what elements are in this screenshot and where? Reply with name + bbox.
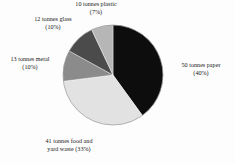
- chart-area: 10 tonnes plastic (7%) 12 tonnes glass (…: [0, 0, 235, 164]
- pie-label-plastic: 10 tonnes plastic (7%): [60, 1, 132, 16]
- pie-slices: [63, 25, 163, 125]
- pie-label-glass: 12 tonnes glass (10%): [16, 16, 90, 31]
- pie-label-paper: 50 tonnes paper (40%): [168, 62, 234, 77]
- pie-chart-screenshot: 10 tonnes plastic (7%) 12 tonnes glass (…: [0, 0, 235, 164]
- pie-label-food-and-yard-waste: 41 tonnes food and yard waste (33%): [22, 138, 116, 153]
- pie-label-metal: 13 tonnes metal (10%): [0, 56, 62, 71]
